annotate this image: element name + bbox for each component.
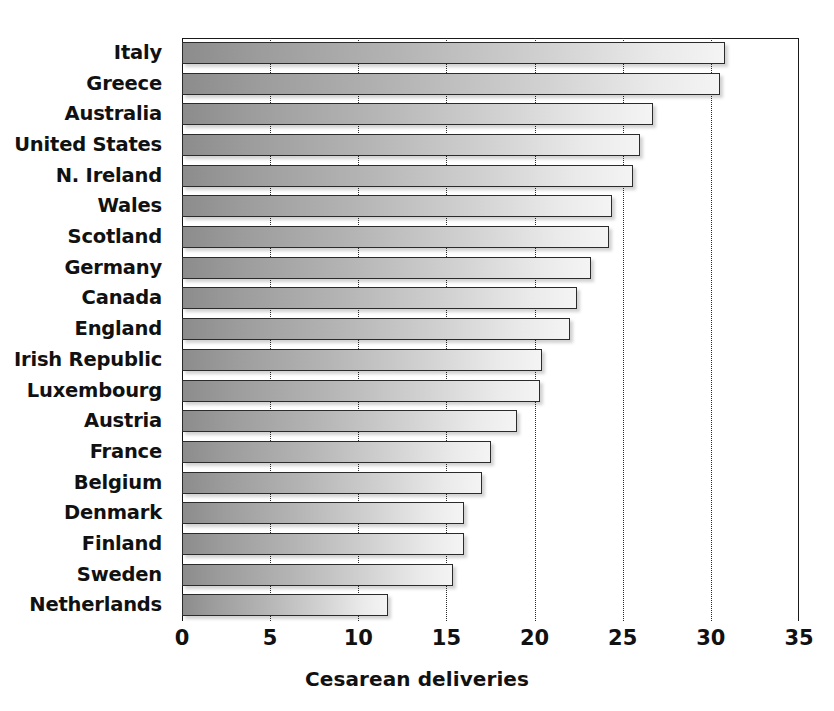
x-tick-label: 20: [520, 626, 549, 650]
bar: [182, 165, 633, 187]
y-tick-label: Italy: [114, 38, 162, 69]
bar-series: [182, 38, 799, 621]
bar: [182, 380, 540, 402]
y-tick-label: Austria: [84, 406, 162, 437]
x-tick-label: 30: [696, 626, 725, 650]
x-tick-label: 25: [608, 626, 637, 650]
y-tick-label: Sweden: [77, 560, 162, 591]
bar-row: [182, 590, 799, 621]
bar: [182, 73, 720, 95]
x-tick-label: 0: [175, 626, 190, 650]
bar-row: [182, 314, 799, 345]
bar: [182, 533, 464, 555]
y-tick-label: Finland: [82, 529, 162, 560]
bar-row: [182, 283, 799, 314]
bar: [182, 472, 482, 494]
bar: [182, 134, 640, 156]
x-tick-label: 10: [344, 626, 373, 650]
bar-row: [182, 191, 799, 222]
bar-row: [182, 406, 799, 437]
bar-row: [182, 560, 799, 591]
bar-row: [182, 529, 799, 560]
bar-row: [182, 222, 799, 253]
bar: [182, 226, 609, 248]
y-tick-label: England: [75, 314, 162, 345]
y-tick-label: Denmark: [64, 498, 162, 529]
chart-figure: ItalyGreeceAustraliaUnited StatesN. Irel…: [0, 0, 834, 711]
bar-row: [182, 345, 799, 376]
y-tick-label: Luxembourg: [27, 376, 162, 407]
bar: [182, 441, 491, 463]
y-axis-tick-labels: ItalyGreeceAustraliaUnited StatesN. Irel…: [0, 38, 172, 621]
bar: [182, 287, 577, 309]
bar: [182, 502, 464, 524]
y-tick-label: N. Ireland: [56, 161, 162, 192]
y-tick-label: Netherlands: [29, 590, 162, 621]
y-tick-label: Scotland: [68, 222, 162, 253]
y-tick-label: Greece: [86, 69, 162, 100]
y-tick-label: Wales: [98, 191, 163, 222]
x-axis-tick-labels: 05101520253035: [182, 626, 799, 660]
bar-row: [182, 437, 799, 468]
bar-row: [182, 130, 799, 161]
bar: [182, 594, 388, 616]
x-tick-label: 35: [784, 626, 813, 650]
y-tick-label: Germany: [64, 253, 162, 284]
bar: [182, 42, 725, 64]
bar-row: [182, 69, 799, 100]
bar-row: [182, 161, 799, 192]
bar: [182, 349, 542, 371]
bar-row: [182, 498, 799, 529]
x-tick-label: 15: [432, 626, 461, 650]
y-tick-label: Australia: [65, 99, 162, 130]
bar-row: [182, 468, 799, 499]
x-axis-title: Cesarean deliveries: [0, 667, 834, 691]
bar: [182, 103, 653, 125]
bar: [182, 257, 591, 279]
bar: [182, 564, 453, 586]
y-tick-label: United States: [14, 130, 162, 161]
bar-row: [182, 38, 799, 69]
y-tick-label: France: [90, 437, 162, 468]
y-tick-label: Belgium: [74, 468, 162, 499]
bar: [182, 410, 517, 432]
bar: [182, 318, 570, 340]
bar-row: [182, 253, 799, 284]
bar-row: [182, 376, 799, 407]
y-tick-label: Irish Republic: [14, 345, 162, 376]
x-tick-label: 5: [263, 626, 278, 650]
plot-area: [182, 38, 799, 621]
bar: [182, 195, 612, 217]
y-tick-label: Canada: [82, 283, 162, 314]
bar-row: [182, 99, 799, 130]
